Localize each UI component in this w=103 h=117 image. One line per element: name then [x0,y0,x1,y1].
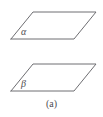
plane-label-beta: β [21,79,26,89]
figure-caption: (a) [0,99,103,109]
geometry-figure: α β (a) [0,0,103,117]
plane-label-alpha: α [21,27,26,37]
